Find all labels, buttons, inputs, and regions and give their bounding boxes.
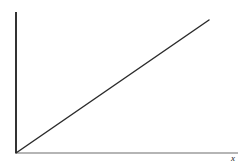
chart-canvas: x bbox=[0, 0, 248, 168]
chart-figure: x bbox=[0, 0, 248, 168]
x-axis-label: x bbox=[230, 153, 235, 163]
chart-background bbox=[0, 0, 248, 168]
